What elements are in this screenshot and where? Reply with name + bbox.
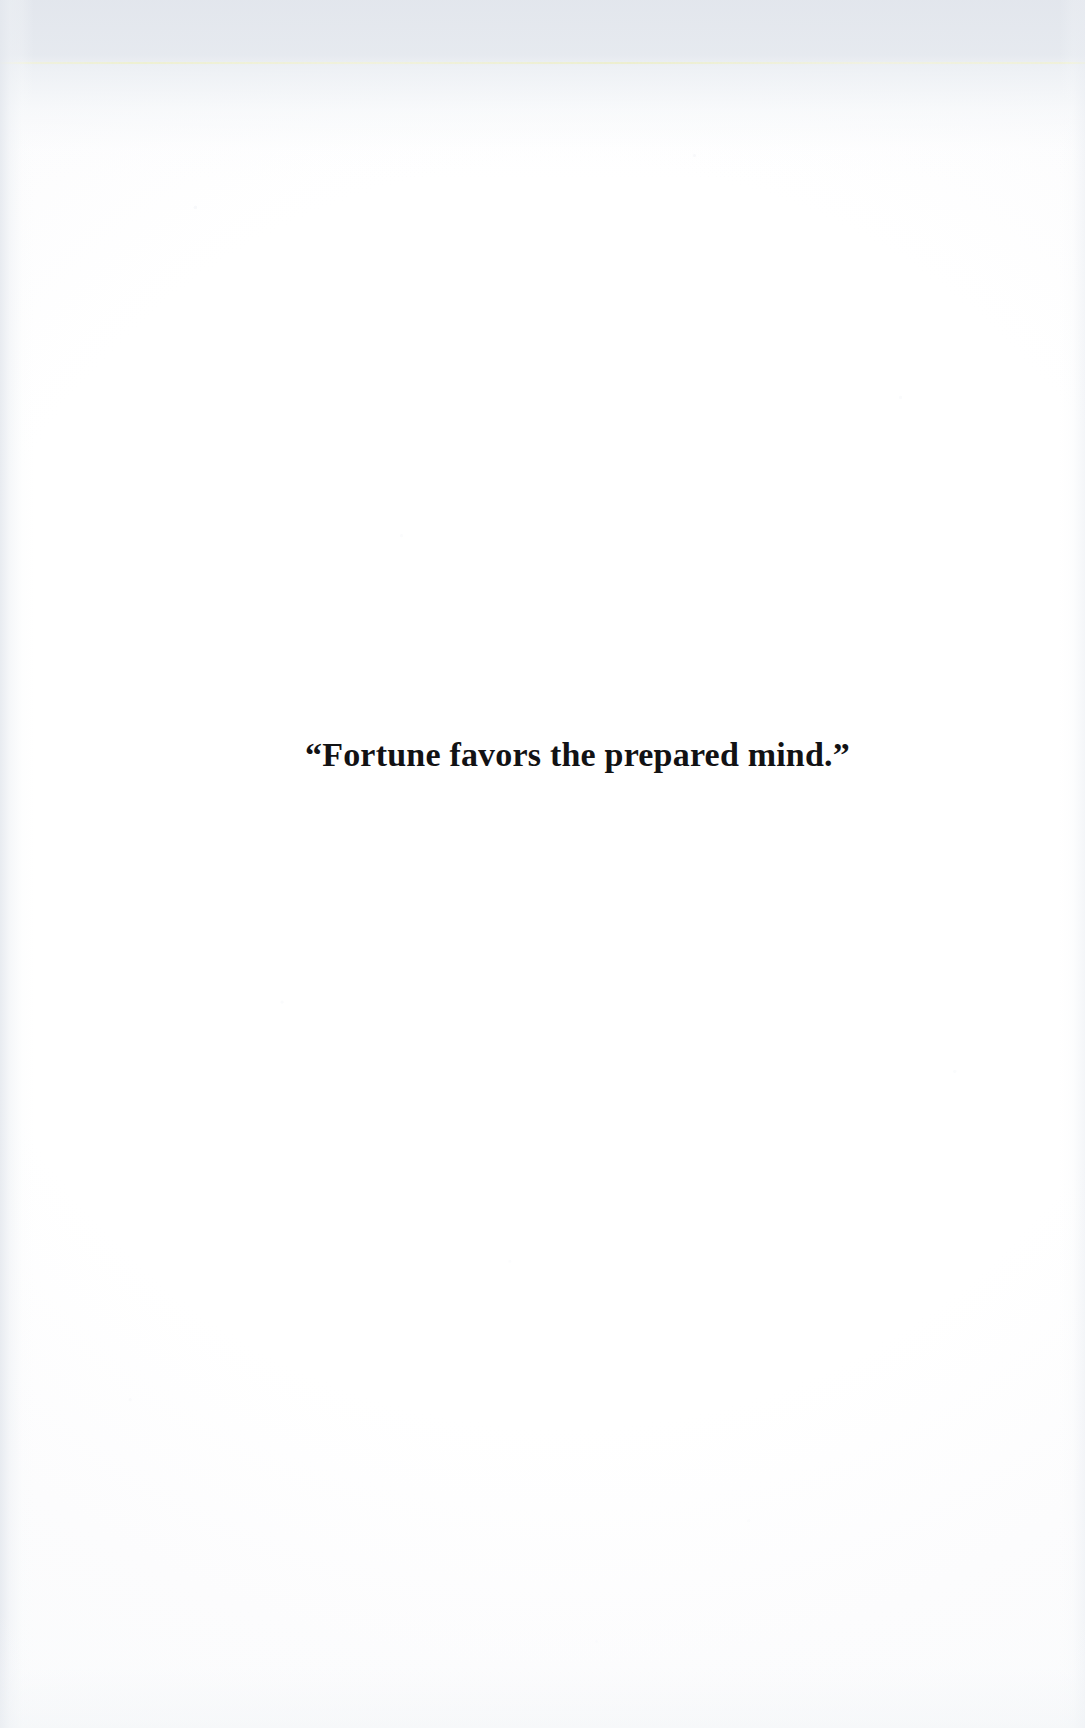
bottom-edge-shadow — [0, 1608, 1085, 1728]
epigraph-quote-text: “Fortune favors the prepared mind.” — [305, 735, 850, 775]
left-gutter-shadow — [0, 0, 34, 1728]
scanned-page: “Fortune favors the prepared mind.” — [0, 0, 1085, 1728]
paper-background — [0, 0, 1085, 1728]
epigraph-block: “Fortune favors the prepared mind.” — [0, 735, 1085, 775]
top-scan-tint — [0, 0, 1085, 180]
horizontal-scan-line-artifact — [0, 62, 1085, 64]
right-edge-shadow — [1059, 0, 1085, 1728]
